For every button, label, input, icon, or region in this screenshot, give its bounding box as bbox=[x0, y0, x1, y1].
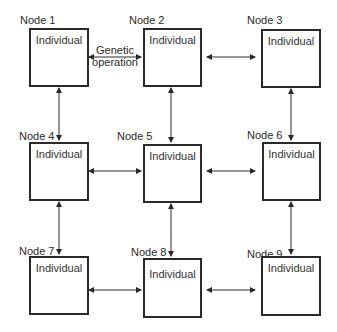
edge-label-line1: Genetic bbox=[89, 44, 141, 56]
node-7-content: Individual bbox=[31, 262, 87, 274]
node-8-box[interactable]: Individual bbox=[143, 258, 202, 318]
node-8-content: Individual bbox=[145, 268, 200, 280]
node-5-content: Individual bbox=[145, 150, 200, 162]
node-1-box[interactable]: Individual bbox=[29, 28, 89, 87]
edge-label-line2: operation bbox=[89, 56, 141, 68]
node-3-label: Node 3 bbox=[247, 14, 282, 26]
node-8-label: Node 8 bbox=[131, 246, 166, 258]
node-9-content: Individual bbox=[263, 262, 319, 274]
node-3-box[interactable]: Individual bbox=[261, 29, 321, 88]
node-1-content: Individual bbox=[31, 34, 87, 46]
node-2-content: Individual bbox=[145, 34, 200, 46]
node-6-label: Node 6 bbox=[247, 129, 282, 141]
node-2-label: Node 2 bbox=[129, 14, 164, 26]
node-2-box[interactable]: Individual bbox=[143, 28, 202, 87]
node-6-content: Individual bbox=[264, 148, 319, 160]
node-7-box[interactable]: Individual bbox=[29, 256, 89, 315]
node-4-box[interactable]: Individual bbox=[29, 142, 89, 201]
node-3-content: Individual bbox=[263, 35, 319, 47]
node-4-label: Node 4 bbox=[19, 130, 54, 142]
node-4-content: Individual bbox=[31, 148, 87, 160]
node-5-box[interactable]: Individual bbox=[143, 144, 202, 203]
node-9-box[interactable]: Individual bbox=[261, 256, 321, 316]
node-5-label: Node 5 bbox=[117, 130, 152, 142]
node-6-box[interactable]: Individual bbox=[262, 142, 321, 201]
node-1-label: Node 1 bbox=[20, 14, 55, 26]
genetic-operation-label: Genetic operation bbox=[89, 44, 141, 68]
